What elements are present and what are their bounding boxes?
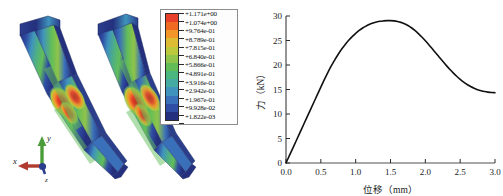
legend-value: +2.942e-01 bbox=[185, 87, 235, 95]
data-curve bbox=[286, 21, 495, 163]
legend-value: +9.928e-02 bbox=[185, 104, 235, 112]
contour-colorbar bbox=[165, 13, 179, 121]
axis-y-arrow bbox=[38, 136, 47, 166]
colorbar-band bbox=[166, 30, 178, 38]
axis-y-label: y bbox=[46, 133, 51, 143]
fem-stage: y x z bbox=[0, 0, 251, 196]
x-axis-title: 位移（mm） bbox=[363, 184, 418, 195]
legend-value: +1.822e-03 bbox=[185, 113, 235, 121]
coordinate-triad-graphic: y x z bbox=[12, 128, 62, 184]
legend-value: +7.815e-01 bbox=[185, 44, 235, 52]
colorbar-band bbox=[166, 63, 178, 71]
x-tick-label: 2.0 bbox=[420, 167, 432, 177]
x-tick-label: 0.0 bbox=[280, 167, 292, 177]
y-axis-title: 力（kN） bbox=[255, 69, 266, 111]
colorbar-band bbox=[166, 22, 178, 30]
colorbar-band bbox=[166, 38, 178, 46]
chart-graphic: 0.00.51.01.52.02.53.0051015202530位移（mm）力… bbox=[251, 0, 503, 196]
legend-value: +3.916e-01 bbox=[185, 79, 235, 87]
axis-z-arrow bbox=[39, 163, 46, 174]
contour-legend: +1.171e+00 +1.074e+00 +9.764e-01 +8.789e… bbox=[160, 9, 238, 125]
x-tick-label: 0.5 bbox=[315, 167, 327, 177]
legend-value: +9.764e-01 bbox=[185, 27, 235, 35]
legend-value: +5.866e-01 bbox=[185, 61, 235, 69]
x-tick-label: 1.0 bbox=[350, 167, 362, 177]
y-tick-label: 0 bbox=[278, 158, 283, 168]
colorbar-band bbox=[166, 47, 178, 55]
legend-value: +1.171e+00 bbox=[185, 10, 235, 18]
y-tick-label: 5 bbox=[278, 134, 283, 144]
colorbar-band bbox=[166, 55, 178, 63]
colorbar-band bbox=[166, 87, 178, 95]
chart-panel: 0.00.51.01.52.02.53.0051015202530位移（mm）力… bbox=[251, 0, 503, 196]
legend-value: +4.891e-01 bbox=[185, 70, 235, 78]
colorbar-band bbox=[166, 79, 178, 87]
colorbar-ticks bbox=[179, 13, 184, 121]
axis-x-arrow bbox=[18, 162, 42, 171]
contour-legend-labels: +1.171e+00 +1.074e+00 +9.764e-01 +8.789e… bbox=[184, 10, 235, 121]
y-tick-label: 20 bbox=[273, 60, 283, 70]
legend-value: +8.789e-01 bbox=[185, 36, 235, 44]
x-tick-label: 1.5 bbox=[385, 167, 397, 177]
y-tick-label: 15 bbox=[273, 85, 283, 95]
colorbar-band bbox=[166, 112, 178, 120]
legend-value: +6.840e-01 bbox=[185, 53, 235, 61]
fem-panel: y x z bbox=[0, 0, 251, 196]
x-tick-label: 3.0 bbox=[489, 167, 501, 177]
y-tick-label: 30 bbox=[273, 11, 283, 21]
colorbar-band bbox=[166, 71, 178, 79]
axis-z-label: z bbox=[44, 176, 48, 184]
y-tick-label: 10 bbox=[273, 109, 283, 119]
colorbar-band bbox=[166, 14, 178, 22]
y-tick-label: 25 bbox=[273, 36, 283, 46]
x-tick-label: 2.5 bbox=[455, 167, 467, 177]
colorbar-band bbox=[166, 104, 178, 112]
legend-value: +1.967e-01 bbox=[185, 96, 235, 104]
axis-x-label: x bbox=[12, 156, 17, 166]
force-displacement-chart: 0.00.51.01.52.02.53.0051015202530位移（mm）力… bbox=[251, 0, 503, 196]
colorbar-band bbox=[166, 96, 178, 104]
legend-value: +1.074e+00 bbox=[185, 19, 235, 27]
coordinate-triad: y x z bbox=[12, 128, 62, 184]
figure-container: y x z bbox=[0, 0, 503, 196]
